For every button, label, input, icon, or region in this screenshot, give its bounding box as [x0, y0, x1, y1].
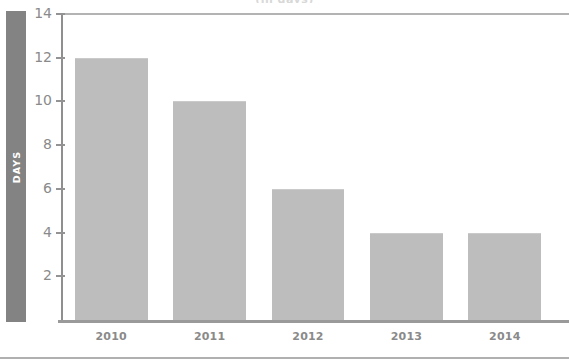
y-tick-label: 10 [20, 92, 52, 108]
y-tick-mark [56, 232, 65, 234]
bar [75, 58, 148, 320]
bar [468, 233, 541, 320]
x-axis-label: 2012 [259, 330, 357, 343]
bar [370, 233, 443, 320]
y-tick-label: 6 [20, 180, 52, 196]
y-tick-label: 8 [20, 136, 52, 152]
x-axis-label: 2014 [456, 330, 554, 343]
y-tick-mark [56, 57, 65, 59]
y-tick-mark [56, 100, 65, 102]
y-axis-title-label: DAYS [11, 150, 22, 182]
y-tick-mark [56, 275, 65, 277]
clipped-chart-title: (in days) [0, 0, 569, 3]
x-axis-label: 2011 [160, 330, 258, 343]
plot-top-rule [62, 13, 569, 15]
y-tick-mark [56, 13, 65, 15]
y-tick-mark [56, 144, 65, 146]
x-axis-label: 2013 [357, 330, 455, 343]
footer-rule [0, 357, 569, 359]
x-axis-line [58, 320, 569, 323]
y-tick-label: 14 [20, 5, 52, 21]
y-tick-mark [56, 188, 65, 190]
y-tick-label: 4 [20, 224, 52, 240]
bar [173, 101, 246, 320]
y-tick-label: 2 [20, 267, 52, 283]
x-axis-label: 2010 [62, 330, 160, 343]
bar [272, 189, 345, 320]
bar-chart: (in days) DAYS 1412108642 20102011201220… [0, 0, 569, 362]
y-tick-label: 12 [20, 49, 52, 65]
